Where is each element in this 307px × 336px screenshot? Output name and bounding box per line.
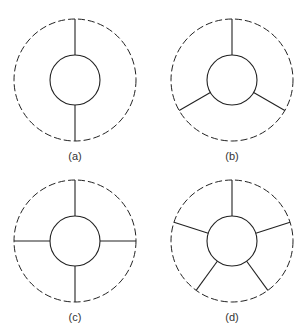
spoke-line <box>254 93 285 111</box>
inner-circle <box>50 55 100 105</box>
inner-circle <box>207 55 257 105</box>
diagram-canvas: (a) (b) (c) (d) <box>0 0 307 336</box>
spoke-line <box>256 222 290 233</box>
inner-circle <box>207 216 257 266</box>
spoke-line <box>179 93 210 111</box>
spoke-line <box>196 261 217 290</box>
figure-label: (b) <box>225 150 238 162</box>
spoke-line <box>247 261 268 290</box>
spoke-line <box>174 222 208 233</box>
figure-label: (d) <box>225 311 238 323</box>
figure-label: (a) <box>68 150 81 162</box>
figure-label: (c) <box>69 311 82 323</box>
figure-b: (b) <box>171 19 293 162</box>
figure-c: (c) <box>14 180 136 323</box>
figure-a: (a) <box>14 19 136 162</box>
inner-circle <box>50 216 100 266</box>
figure-d: (d) <box>171 180 293 323</box>
